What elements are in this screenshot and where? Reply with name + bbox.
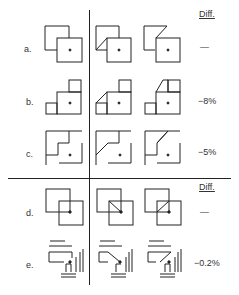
row-b-variant-1 [96,80,131,114]
diff-value-d: — [200,207,209,217]
row-label-d: d. [26,208,34,218]
row-label-a: a. [24,44,32,54]
row-a-variant-2 [144,26,180,62]
diff-header-top: Diff. [199,9,215,19]
row-d-variant-2 [145,189,181,225]
row-c-variant-1 [96,131,131,165]
row-label-e: e. [26,260,34,270]
row-a-variant-1 [96,26,131,62]
row-a-original [45,26,82,62]
row-label-c: c. [26,149,33,159]
row-b-variant-2 [145,80,180,114]
row-e-variant-1 [99,241,132,277]
diff-value-b: −8% [198,96,216,106]
row-e-original [49,241,83,277]
row-b-original [46,80,81,114]
row-d-variant-1 [97,189,133,225]
row-c-original [46,131,82,165]
row-label-b: b. [26,97,34,107]
row-d-original [46,189,83,225]
diff-value-c: −5% [198,147,216,157]
diff-header-bottom: Diff. [199,182,215,192]
diff-value-a: — [200,42,209,52]
row-e-variant-2 [148,241,181,277]
diff-value-e: −0.2% [194,258,220,268]
row-c-variant-2 [145,131,180,165]
